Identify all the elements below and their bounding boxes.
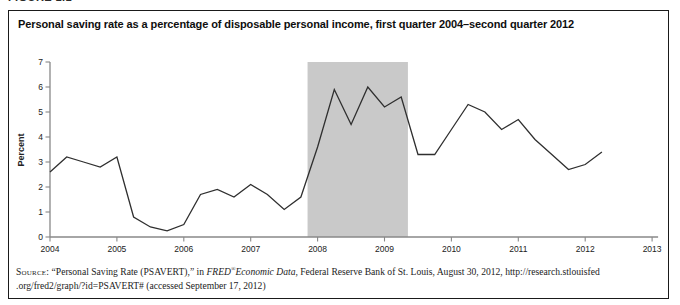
source-text-line2: .org/fred2/graph/?id=PSAVERT# (accessed …	[16, 280, 266, 291]
x-tick-label: 2008	[308, 244, 327, 254]
y-axis-title: Percent	[16, 133, 26, 166]
x-tick-label: 2012	[576, 244, 595, 254]
y-tick-label: 6	[38, 82, 43, 92]
x-tick-label: 2005	[107, 244, 126, 254]
source-text-1: “Personal Saving Rate (PSAVERT),” in	[49, 266, 206, 277]
y-tick-label: 0	[38, 232, 43, 242]
source-note: Source: “Personal Saving Rate (PSAVERT),…	[16, 265, 664, 293]
x-tick-label: 2010	[442, 244, 461, 254]
y-tick-label: 4	[38, 132, 43, 142]
x-tick-label: 2004	[41, 244, 60, 254]
x-tick-label: 2013	[643, 244, 662, 254]
y-tick-label: 1	[38, 207, 43, 217]
y-tick-label: 2	[38, 182, 43, 192]
source-text-2: , Federal Reserve Bank of St. Louis, Aug…	[295, 266, 599, 277]
y-tick-label: 3	[38, 157, 43, 167]
source-fred-italic: FRED	[206, 266, 231, 277]
source-econdata-italic: Economic Data	[235, 266, 295, 277]
x-tick-label: 2006	[174, 244, 193, 254]
recession-shading	[308, 62, 408, 237]
x-tick-label: 2007	[241, 244, 260, 254]
saving-rate-line-chart: 0123456720042005200620072008200920102011…	[0, 0, 680, 305]
y-tick-label: 5	[38, 107, 43, 117]
source-label: Source:	[16, 266, 49, 277]
x-tick-label: 2009	[375, 244, 394, 254]
y-tick-label: 7	[38, 57, 43, 67]
x-tick-label: 2011	[509, 244, 528, 254]
